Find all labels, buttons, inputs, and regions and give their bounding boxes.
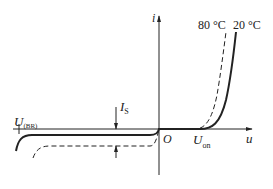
- breakdown-voltage-label: U(BR): [14, 114, 38, 130]
- curve-label-80c: 80 °C: [198, 18, 226, 32]
- breakdown-voltage-subscript: (BR): [23, 122, 38, 130]
- curve-label-20c: 20 °C: [233, 18, 261, 32]
- curve-20c: [16, 32, 236, 151]
- x-axis-label: u: [246, 131, 253, 146]
- origin-label: O: [163, 132, 172, 146]
- saturation-current-label: IS: [119, 99, 129, 116]
- turn-on-voltage-subscript: on: [202, 141, 210, 150]
- y-axis-label: i: [152, 11, 155, 25]
- saturation-current-subscript: S: [124, 107, 128, 116]
- diode-iv-diagram: i u O 80 °C 20 °C U(BR) IS Uon: [0, 0, 273, 189]
- turn-on-voltage-label: Uon: [193, 132, 210, 150]
